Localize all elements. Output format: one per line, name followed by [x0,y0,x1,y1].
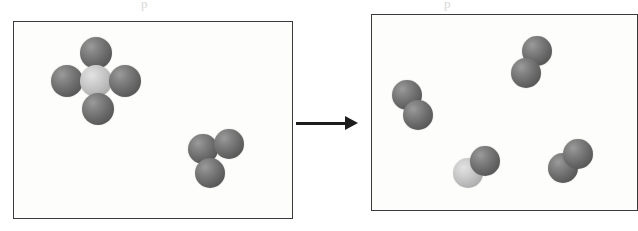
molecule-three-sphere-cluster [14,22,292,218]
panel-reactants-content [14,22,292,218]
molecule-pair-bottom-right [372,15,637,210]
panel-reactants [13,21,293,219]
panel-products-content [372,15,637,210]
ghost-text-top-left: p [141,0,148,12]
atom-sphere-dark [214,129,244,159]
panel-products [371,14,638,211]
reaction-arrow [296,116,358,130]
atom-sphere-dark [195,158,225,188]
ghost-text-top-right: p [444,0,451,12]
arrow-head [345,116,358,130]
arrow-shaft [296,122,347,125]
reaction-figure: p p [0,0,638,231]
atom-sphere-dark [563,139,593,169]
